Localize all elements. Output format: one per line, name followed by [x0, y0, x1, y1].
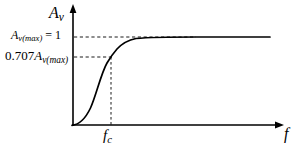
y-axis-label: Av [49, 5, 64, 24]
half-power-main: A [34, 48, 42, 63]
half-power-prefix: 0.707 [5, 48, 34, 63]
y-axis-label-sub: v [59, 11, 64, 23]
cutoff-label-sub: c [107, 133, 112, 145]
x-axis-arrowhead [275, 122, 284, 129]
av-max-sub: v(max) [18, 33, 42, 43]
y-axis-arrowhead [70, 4, 77, 13]
av-max-equals: = 1 [42, 28, 61, 42]
y-axis-label-main: A [49, 4, 59, 21]
y-axis-group [70, 4, 77, 126]
response-curve [72, 37, 270, 125]
av-max-tick-label: Av(max) = 1 [11, 29, 61, 43]
plot-area [0, 0, 298, 148]
cutoff-frequency-label: fc [103, 128, 112, 145]
half-power-sub: v(max) [42, 55, 68, 65]
x-axis-label: f [284, 126, 288, 142]
half-power-tick-label: 0.707Av(max) [5, 49, 68, 65]
filter-response-figure: Av f fc Av(max) = 1 0.707Av(max) [0, 0, 298, 148]
